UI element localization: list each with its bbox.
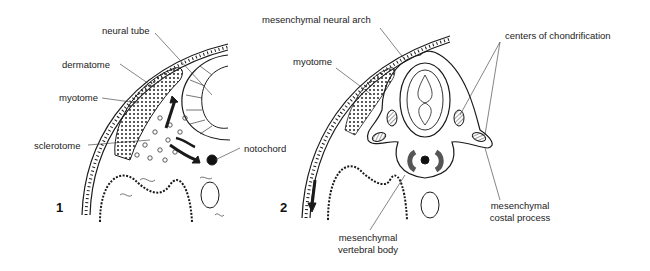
label-mesenchymal-neural-arch: mesenchymal neural arch (262, 14, 371, 26)
vertebral-body-line-2: vertebral body (318, 244, 418, 256)
costal-process-line-2: costal process (470, 212, 570, 224)
label-dermatome: dermatome (62, 59, 110, 71)
label-centers-of-chondrification: centers of chondrification (505, 30, 611, 42)
panel-1-number: 1 (56, 200, 63, 215)
label-notochord: notochord (244, 143, 286, 155)
label-myotome-1: myotome (59, 92, 98, 104)
vertebral-body-line-1: mesenchymal (318, 232, 418, 244)
label-mesenchymal-vertebral-body: mesenchymal vertebral body (318, 232, 418, 256)
costal-process-line-1: mesenchymal (470, 200, 570, 212)
label-neural-tube: neural tube (102, 25, 150, 37)
label-myotome-2: myotome (293, 56, 332, 68)
panel-2-number: 2 (280, 200, 287, 215)
label-mesenchymal-costal-process: mesenchymal costal process (470, 200, 570, 224)
label-sclerotome: sclerotome (34, 140, 80, 152)
